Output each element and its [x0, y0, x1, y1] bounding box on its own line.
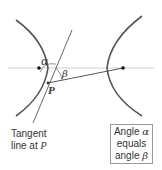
info-box-line3-prefix: angle	[115, 150, 142, 161]
angle-equality-box: Angle α equals angle β	[110, 124, 153, 164]
hyperbola-right-branch	[107, 16, 142, 116]
info-box-line2: equals	[111, 138, 152, 150]
alpha-label: α	[41, 56, 48, 68]
beta-label: β	[62, 68, 68, 80]
right-focus-point	[121, 66, 125, 70]
info-box-line1: Angle α	[111, 126, 152, 138]
info-box-alpha: α	[142, 126, 149, 137]
tangent-caption-var: P	[40, 140, 46, 151]
info-box-beta: β	[142, 150, 148, 161]
point-p-label: P	[48, 84, 55, 96]
tangent-caption-line1: Tangent	[11, 128, 71, 140]
info-box-line3: angle β	[111, 150, 152, 162]
tangent-caption-line2: line at P	[11, 140, 71, 152]
tangent-caption-prefix: line at	[11, 140, 40, 151]
info-box-line1-prefix: Angle	[114, 126, 142, 137]
focal-line-right	[48, 68, 123, 83]
tangent-line-caption: Tangent line at P	[11, 128, 71, 152]
